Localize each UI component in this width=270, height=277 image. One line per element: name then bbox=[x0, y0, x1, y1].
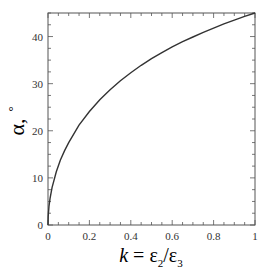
x-axis-sub2: 3 bbox=[177, 257, 183, 269]
x-tick-label: 0.6 bbox=[165, 230, 179, 242]
chart: 00.20.40.60.81 010203040 α, ° k = ε2/ε3 bbox=[0, 0, 270, 277]
y-tick-label: 30 bbox=[32, 78, 44, 90]
x-axis-slash: /ε bbox=[163, 244, 177, 266]
x-tick-label: 0.4 bbox=[124, 230, 138, 242]
minor-ticks bbox=[48, 13, 255, 225]
data-line bbox=[48, 13, 255, 225]
y-tick-label: 40 bbox=[32, 31, 44, 43]
x-tick-labels: 00.20.40.60.81 bbox=[45, 230, 258, 242]
y-tick-label: 10 bbox=[32, 172, 44, 184]
x-tick-label: 1 bbox=[252, 230, 258, 242]
x-axis-label: k = ε2/ε3 bbox=[119, 244, 183, 269]
major-ticks bbox=[48, 13, 255, 225]
plot-frame bbox=[48, 13, 255, 225]
y-axis-symbol: α, bbox=[4, 119, 29, 136]
y-tick-label: 20 bbox=[32, 125, 44, 137]
y-tick-label: 0 bbox=[38, 219, 44, 231]
x-tick-label: 0.2 bbox=[83, 230, 97, 242]
y-axis-label: α, ° bbox=[4, 106, 29, 135]
y-axis-unit: ° bbox=[5, 106, 20, 111]
x-tick-label: 0 bbox=[45, 230, 51, 242]
y-tick-labels: 010203040 bbox=[32, 31, 44, 231]
x-tick-label: 0.8 bbox=[207, 230, 221, 242]
x-axis-eq: = ε bbox=[128, 244, 158, 266]
